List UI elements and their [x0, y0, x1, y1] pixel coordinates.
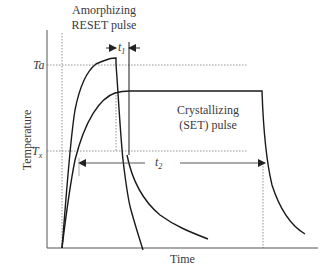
- diagram-canvas: [0, 0, 330, 270]
- reset-decay-curve: [127, 155, 208, 239]
- reset-pulse-label: Amorphizing RESET pulse: [64, 4, 144, 31]
- reset-pulse-line1: Amorphizing: [64, 4, 144, 16]
- t1-label-sub: 1: [121, 47, 125, 56]
- reset-pulse-curve: [62, 58, 143, 250]
- set-pulse-label: Crystallizing (SET) pulse: [163, 104, 253, 131]
- ta-label: Ta: [33, 59, 45, 71]
- tx-label-sub: x: [39, 151, 43, 160]
- t2-label-sub: 2: [158, 162, 162, 171]
- t2-label: t2: [155, 156, 162, 171]
- set-pulse-line1: Crystallizing: [163, 104, 253, 116]
- set-pulse-line2: (SET) pulse: [163, 119, 253, 131]
- pcm-pulse-diagram: Amorphizing RESET pulse Crystallizing (S…: [0, 0, 330, 270]
- y-axis-label: Temperature: [21, 105, 33, 175]
- x-axis-label: Time: [170, 253, 195, 265]
- t1-label: t1: [118, 41, 125, 56]
- reset-pulse-line2: RESET pulse: [64, 19, 144, 31]
